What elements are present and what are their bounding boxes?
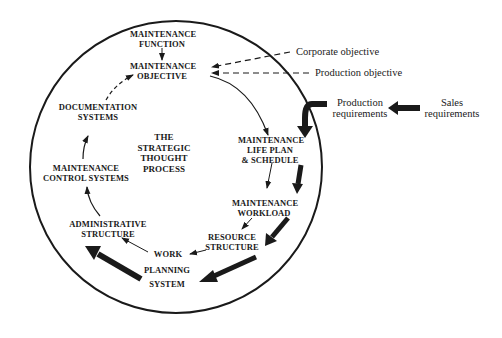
node-resource-structure: RESOURCE STRUCTURE — [204, 232, 260, 252]
node-maintenance-workload: MAINTENANCE WORKLOAD — [232, 198, 296, 218]
input-production-objective: Production objective — [315, 67, 402, 78]
input-production-requirements: Production requirements — [328, 97, 392, 119]
arrow-documentation-to-objective — [106, 75, 133, 100]
node-work-planning-system-system: SYSTEM — [140, 279, 194, 289]
arrow-corporate-to-objective — [212, 52, 290, 67]
arrow-objective-to-life-plan — [210, 76, 268, 135]
center-label-strategic-thought-process: THE STRATEGIC THOUGHT PROCESS — [134, 132, 194, 174]
arrow-work-to-admin-thin — [122, 238, 148, 252]
input-sales-requirements: Sales requirements — [420, 97, 484, 119]
arrow-resource-to-planning-thick — [214, 257, 256, 276]
node-work-planning-system-work: WORK — [148, 249, 188, 259]
arrow-workload-to-resource-thin — [242, 218, 252, 229]
node-administrative-structure: ADMINISTRATIVE STRUCTURE — [68, 219, 148, 239]
input-corporate-objective: Corporate objective — [296, 46, 379, 57]
node-work-planning-system-planning: PLANNING — [140, 265, 194, 275]
arrow-admin-to-control — [87, 187, 100, 216]
arrow-control-to-documentation — [83, 136, 88, 159]
node-maintenance-objective: MAINTENANCE OBJECTIVE — [130, 61, 194, 81]
node-documentation-systems: DOCUMENTATION SYSTEMS — [58, 102, 138, 122]
node-maintenance-function: MAINTENANCE FUNCTION — [130, 29, 194, 49]
arrow-life-plan-to-workload-thick — [298, 165, 301, 184]
arrow-workload-to-resource-thick — [272, 218, 288, 237]
arrowhead-resource-thick — [199, 270, 218, 282]
arrow-planning-to-admin-thick — [98, 254, 141, 279]
arrow-life-plan-to-workload-thin — [267, 163, 272, 188]
node-maintenance-life-plan: MAINTENANCE LIFE PLAN & SCHEDULE — [238, 135, 302, 165]
strategic-thought-process-diagram: MAINTENANCE FUNCTION MAINTENANCE OBJECTI… — [0, 0, 502, 338]
node-maintenance-control-systems: MAINTENANCE CONTROL SYSTEMS — [38, 163, 134, 183]
arrowhead-life-plan-thick — [292, 183, 303, 194]
